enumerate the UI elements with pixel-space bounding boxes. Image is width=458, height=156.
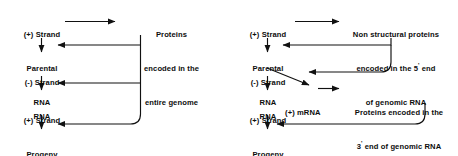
node-sproteins-line2: 3' end of genomic RNA (340, 141, 458, 152)
node-plus-mrna-line1: (+) mRNA (285, 107, 321, 118)
node-sproteins-line1: Proteins encoded in the (340, 107, 458, 118)
node-structural-proteins: Proteins encoded in the 3' end of genomi… (340, 84, 458, 156)
node-proteins-line3: entire genome (119, 97, 224, 108)
node-parental-rna-line1: (+) Strand (229, 29, 307, 40)
node-sproteins-line2b: end of genomic RNA (363, 142, 442, 151)
node-progeny-rna-line1: (+) Strand (0, 115, 84, 126)
node-progeny-virus-line1: Progeny (0, 154, 84, 156)
node-progeny-virus: Progeny Virus (0, 131, 84, 156)
node-proteins-line2: encoded in the (119, 63, 224, 74)
node-nsproteins-line1: Non structural proteins (337, 29, 455, 40)
node-minus-strand-rna-line1: (-) Strand (0, 77, 84, 88)
node-nsproteins-line2: encoded in the 5' end (337, 63, 455, 74)
node-proteins-entire-genome: Proteins encoded in the entire genome (119, 6, 224, 131)
node-plus-mrna: (+) mRNA (285, 84, 321, 141)
node-nsproteins-line2b: end (420, 64, 436, 73)
node-nsproteins-line2a: encoded in the 5 (356, 64, 418, 73)
diagram-canvas: (+) Strand Parental RNA (-) Strand RNA (… (0, 0, 458, 156)
node-proteins-line1: Proteins (119, 29, 224, 40)
node-progeny-virus-line1: Progeny (229, 154, 307, 156)
panel-subgenomic-mrna-scheme: (+) Strand Parental RNA (-) Strand RNA (… (229, 0, 458, 156)
node-parental-rna-line1: (+) Strand (0, 29, 84, 40)
panel-entire-genome-scheme: (+) Strand Parental RNA (-) Strand RNA (… (0, 0, 229, 156)
